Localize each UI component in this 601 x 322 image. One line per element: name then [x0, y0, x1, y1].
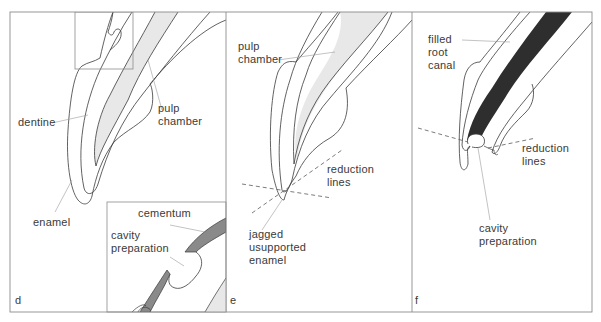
label-enamel: enamel [33, 216, 70, 229]
label-cavity-preparation-f: cavity preparation [479, 222, 537, 248]
panel-letter-d: d [15, 294, 21, 306]
figure-drawing [0, 0, 601, 322]
dental-procedure-figure: dentine pulp chamber enamel cementum cav… [0, 0, 601, 322]
label-dentine: dentine [18, 116, 56, 129]
label-pulp-chamber-d: pulp chamber [158, 102, 202, 128]
label-jagged-unsupported-enamel: jagged usupported enamel [249, 228, 306, 267]
label-reduction-lines-f: reduction lines [522, 142, 569, 168]
label-pulp-chamber-e: pulp chamber [238, 40, 282, 66]
panel-letter-f: f [415, 294, 418, 306]
label-reduction-lines-e: reduction lines [327, 163, 374, 189]
label-filled-root-canal: filled root canal [428, 33, 455, 72]
label-cavity-preparation-d: cavity preparation [111, 229, 169, 255]
label-cementum: cementum [138, 207, 191, 220]
panel-letter-e: e [230, 294, 236, 306]
